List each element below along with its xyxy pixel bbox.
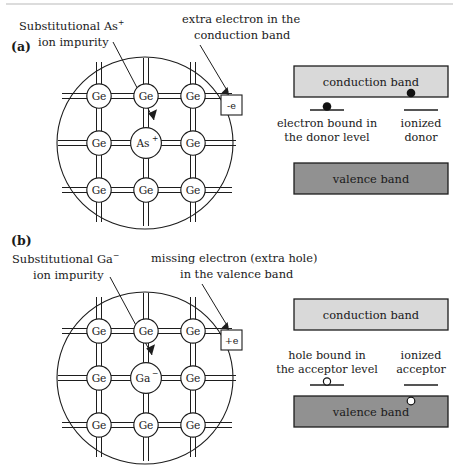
impurity-atom-charge: +: [152, 134, 158, 143]
panel-a-label: (a): [11, 39, 31, 54]
panel-b-carrier-annotation-line2: in the valence band: [180, 267, 293, 281]
panel-a: (a) Substitutional As + ion impurity ext…: [11, 12, 448, 229]
atom-label: Ge: [139, 419, 154, 431]
atom-label: Ge: [186, 184, 201, 196]
panel-b-carrier-annotation-line1: missing electron (extra hole): [151, 251, 317, 265]
bound-donor-level-label-line1: electron bound in: [277, 117, 377, 130]
panel-a-carrier-annotation-line1: extra electron in the: [182, 12, 300, 26]
figure-canvas: (a) Substitutional As + ion impurity ext…: [0, 0, 459, 472]
atom-label: Ge: [186, 325, 201, 337]
ionized-acceptor-label-line2: acceptor: [396, 363, 446, 376]
ionized-donor-label-line1: ionized: [401, 117, 442, 130]
atom-label: Ge: [92, 372, 107, 384]
atom-label: Ge: [92, 184, 107, 196]
atom-label: Ge: [92, 325, 107, 337]
atom-label: Ge: [139, 184, 154, 196]
panel-b-label: (b): [11, 233, 32, 248]
impurity-atom-charge: −: [152, 369, 158, 378]
figure-root: (a) Substitutional As + ion impurity ext…: [0, 0, 459, 472]
atom-label: Ge: [186, 137, 201, 149]
panel-b-impurity-annotation-line2: ion impurity: [33, 268, 104, 282]
impurity-atom-label: As: [135, 137, 149, 149]
panel-a-impurity-annotation-line2: ion impurity: [38, 35, 109, 49]
panel-b-impurity-annotation-line1: Substitutional Ga: [12, 252, 113, 266]
atom-label: Ge: [186, 90, 201, 102]
panel-b: (b) Substitutional Ga − ion impurity mis…: [11, 233, 448, 464]
conduction-band-label: conduction band: [323, 308, 419, 322]
panel-a-carrier-leader: [200, 45, 229, 95]
impurity-atom-label: Ga: [136, 372, 151, 384]
panel-a-lattice-atoms: Ge Ge Ge Ge As + Ge Ge Ge Ge: [87, 84, 205, 202]
atom-label: Ge: [186, 419, 201, 431]
panel-b-carrier-leader: [202, 284, 229, 330]
ionized-donor-label-line2: donor: [404, 131, 438, 144]
conduction-band-electron: [407, 89, 416, 98]
panel-a-impurity-leader: [113, 42, 157, 120]
conduction-band-label: conduction band: [323, 75, 419, 89]
bound-donor-level-label-line2: the donor level: [284, 131, 370, 144]
bound-donor-electron: [323, 102, 332, 111]
ionized-acceptor-label-line1: ionized: [401, 349, 442, 362]
bound-acceptor-level-label-line1: hole bound in: [288, 349, 366, 362]
atom-label: Ge: [92, 137, 107, 149]
bound-acceptor-level-label-line2: the acceptor level: [276, 363, 378, 376]
panel-a-impurity-annotation-superscript: +: [118, 18, 124, 27]
valence-band-label: valence band: [332, 172, 409, 186]
atom-label: Ge: [92, 90, 107, 102]
bound-acceptor-hole: [323, 378, 330, 385]
panel-a-charge-box: -e: [221, 95, 242, 115]
panel-a-impurity-annotation-line1: Substitutional As: [19, 19, 118, 33]
panel-b-lattice-atoms: Ge Ge Ge Ge Ga − Ge Ge Ge Ge: [87, 319, 205, 437]
atom-label: Ge: [186, 372, 201, 384]
panel-a-band-diagram: conduction band electron bound in the do…: [277, 66, 448, 194]
atom-label: Ge: [139, 90, 154, 102]
panel-b-charge-box: +e: [221, 330, 242, 350]
valence-band-label: valence band: [332, 405, 409, 419]
panel-b-impurity-annotation-superscript: −: [113, 251, 119, 260]
atom-label: Ge: [92, 419, 107, 431]
panel-b-band-diagram: conduction band hole bound in the accept…: [276, 299, 448, 427]
panel-a-carrier-annotation-line2: conduction band: [194, 28, 290, 42]
charge-box-label: -e: [227, 100, 236, 111]
charge-box-label: +e: [225, 335, 239, 346]
atom-label: Ge: [139, 325, 154, 337]
valence-band-hole: [407, 397, 415, 405]
